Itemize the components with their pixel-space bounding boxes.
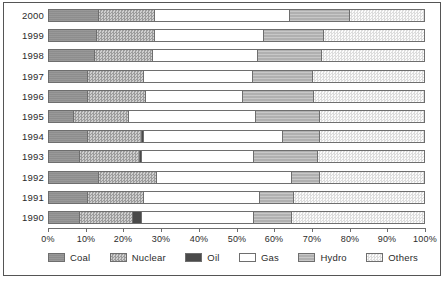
- x-axis-tick: [350, 228, 351, 232]
- bar-row: [48, 150, 425, 163]
- x-axis-tick: [161, 228, 162, 232]
- chart-legend: CoalNuclearOilGasHydroOthers: [48, 252, 418, 263]
- x-axis-tick: [48, 228, 49, 232]
- legend-item-gas: Gas: [239, 252, 279, 263]
- x-axis-tick: [312, 228, 313, 232]
- bar-row: [48, 191, 425, 204]
- year-label: 1999: [2, 29, 44, 42]
- legend-swatch-nuclear-icon: [110, 253, 127, 262]
- bar-segment-coal: [49, 50, 94, 61]
- bar-segment-coal: [49, 30, 96, 41]
- bar-segment-oil: [132, 212, 141, 223]
- bar-segment-hydro: [257, 50, 321, 61]
- bar-row: [48, 49, 425, 62]
- x-axis-tick-label: 60%: [265, 234, 284, 244]
- bar-segment-hydro: [289, 10, 349, 21]
- bar-segment-others: [313, 91, 424, 102]
- legend-swatch-others-icon: [366, 253, 383, 262]
- bar-segment-nuclear: [98, 10, 154, 21]
- bar-row: [48, 9, 425, 22]
- year-label: 1996: [2, 90, 44, 103]
- stacked-bar-chart: 2000199919981997199619951994199319921991…: [0, 0, 444, 281]
- bar-row: [48, 29, 425, 42]
- bar-segment-nuclear: [79, 151, 139, 162]
- x-axis-tick: [425, 228, 426, 232]
- x-axis-tick: [199, 228, 200, 232]
- bar-segment-gas: [154, 10, 289, 21]
- bar-segment-nuclear: [87, 131, 141, 142]
- bar-segment-hydro: [282, 131, 320, 142]
- legend-swatch-coal-icon: [48, 253, 65, 262]
- year-label: 1991: [2, 191, 44, 204]
- bar-segment-nuclear: [98, 172, 156, 183]
- bar-row: [48, 211, 425, 224]
- bar-segment-coal: [49, 71, 87, 82]
- year-axis: 2000199919981997199619951994199319921991…: [0, 9, 44, 224]
- legend-label: Oil: [207, 252, 219, 263]
- legend-item-others: Others: [366, 252, 418, 263]
- bar-segment-others: [291, 212, 424, 223]
- year-label: 2000: [2, 9, 44, 22]
- legend-label: Gas: [261, 252, 279, 263]
- bar-segment-gas: [141, 151, 254, 162]
- bar-segment-gas: [143, 131, 282, 142]
- bar-segment-nuclear: [73, 111, 127, 122]
- x-axis-tick-label: 80%: [341, 234, 360, 244]
- bar-segment-others: [319, 131, 424, 142]
- bar-segment-coal: [49, 10, 98, 21]
- bar-segment-coal: [49, 172, 98, 183]
- year-label: 1993: [2, 150, 44, 163]
- year-label: 1992: [2, 171, 44, 184]
- x-axis-tick-label: 90%: [378, 234, 397, 244]
- legend-item-oil: Oil: [185, 252, 219, 263]
- bar-segment-hydro: [255, 111, 319, 122]
- legend-swatch-gas-icon: [239, 253, 256, 262]
- bar-segment-hydro: [252, 71, 312, 82]
- x-axis-tick-label: 40%: [190, 234, 209, 244]
- bar-segment-gas: [145, 91, 243, 102]
- legend-label: Nuclear: [132, 252, 166, 263]
- x-axis-tick-label: 100%: [413, 234, 437, 244]
- bar-segment-others: [349, 10, 424, 21]
- bar-segment-gas: [154, 30, 263, 41]
- bar-segment-coal: [49, 151, 79, 162]
- legend-swatch-oil-icon: [185, 253, 202, 262]
- legend-label: Others: [388, 252, 418, 263]
- bar-segment-others: [319, 172, 424, 183]
- bar-row: [48, 90, 425, 103]
- x-axis-tick: [387, 228, 388, 232]
- bar-segment-coal: [49, 212, 79, 223]
- bar-segment-hydro: [253, 212, 291, 223]
- bar-segment-nuclear: [87, 91, 145, 102]
- bar-segment-coal: [49, 131, 87, 142]
- x-axis-tick-label: 30%: [152, 234, 171, 244]
- year-label: 1998: [2, 49, 44, 62]
- bar-segment-hydro: [259, 192, 293, 203]
- bar-segment-hydro: [263, 30, 323, 41]
- bar-segment-coal: [49, 91, 87, 102]
- x-axis-tick-label: 20%: [114, 234, 133, 244]
- bar-segment-hydro: [291, 172, 319, 183]
- x-axis-tick-label: 70%: [303, 234, 322, 244]
- bar-segment-gas: [143, 192, 259, 203]
- bar-row: [48, 70, 425, 83]
- x-axis-tick-label: 0%: [41, 234, 54, 244]
- bar-row: [48, 171, 425, 184]
- bar-segment-hydro: [242, 91, 313, 102]
- legend-item-nuclear: Nuclear: [110, 252, 166, 263]
- bar-segment-coal: [49, 111, 73, 122]
- bar-segment-gas: [128, 111, 256, 122]
- bar-segment-nuclear: [94, 50, 152, 61]
- year-label: 1990: [2, 211, 44, 224]
- x-axis-tick: [86, 228, 87, 232]
- bar-segment-hydro: [253, 151, 317, 162]
- x-axis-tick-label: 10%: [77, 234, 96, 244]
- bar-row: [48, 110, 425, 123]
- bar-segment-coal: [49, 192, 87, 203]
- bar-segment-others: [321, 50, 424, 61]
- bar-segment-nuclear: [87, 192, 143, 203]
- legend-label: Hydro: [320, 252, 346, 263]
- x-axis-tick: [123, 228, 124, 232]
- bottom-rule: [3, 275, 441, 276]
- legend-item-hydro: Hydro: [298, 252, 346, 263]
